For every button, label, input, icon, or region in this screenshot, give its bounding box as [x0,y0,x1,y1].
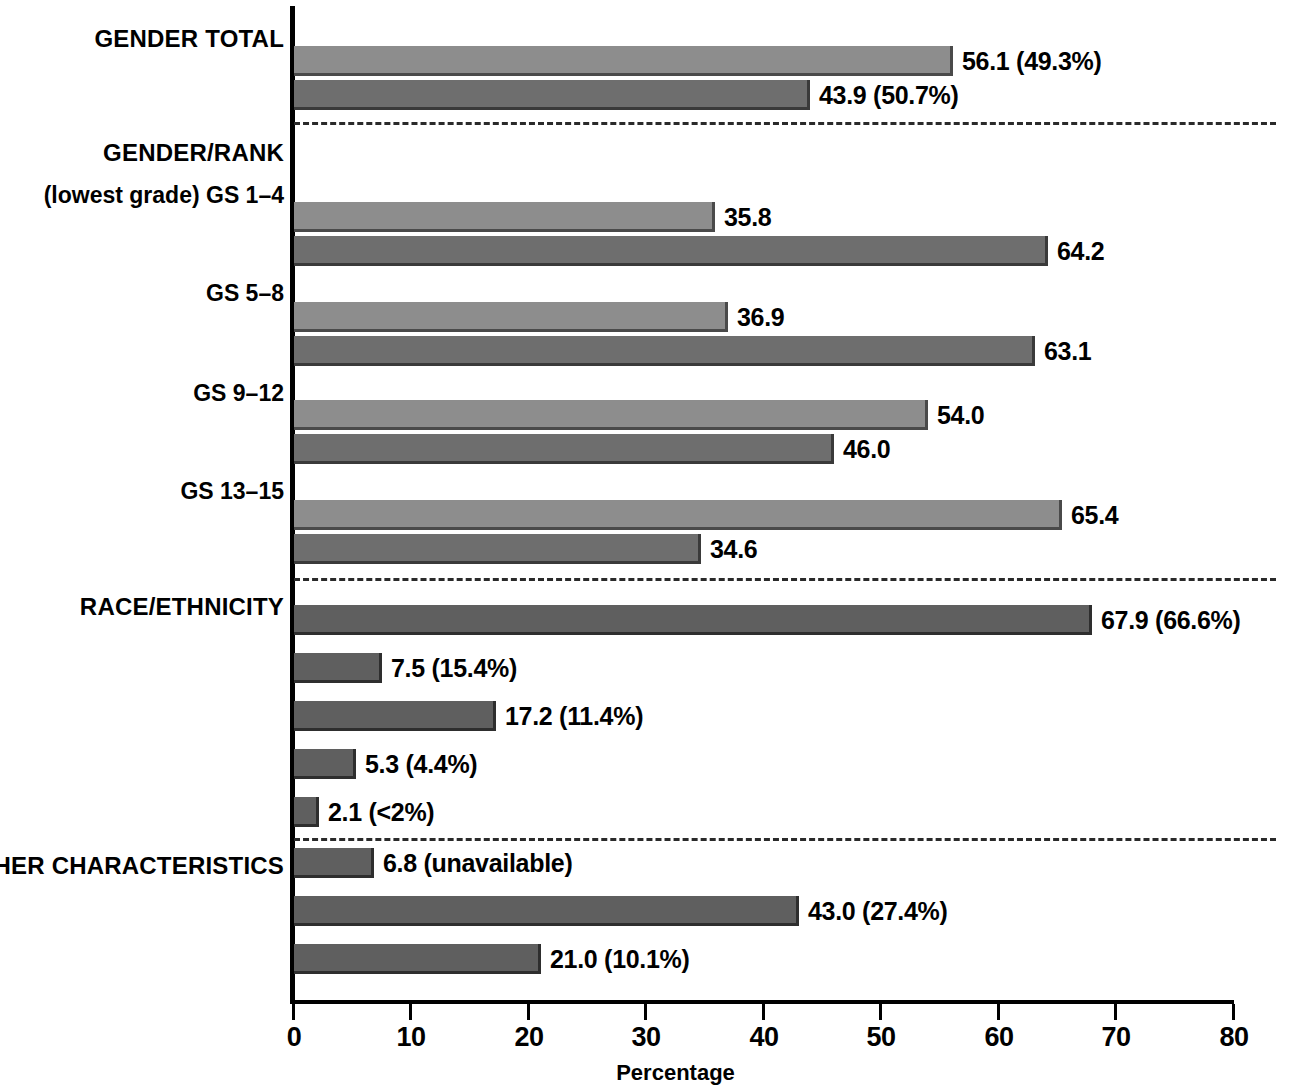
section-divider-2 [294,578,1276,581]
bar-african-american [294,701,496,731]
bar-veteran [294,944,541,974]
x-tick-10 [409,1004,412,1020]
x-tick-30 [644,1004,647,1020]
subgroup-header-gs-1-4: (lowest grade) GS 1–4 [0,180,294,210]
x-tick-20 [527,1004,530,1020]
x-tick-label-10: 10 [396,1022,425,1053]
section-header-gender-total: GENDER TOTAL [0,24,294,54]
bar-gs-13-15-female [294,534,701,564]
x-tick-0 [292,1004,295,1020]
x-tick-40 [762,1004,765,1020]
value-american-indian: 2.1 (<2%) [328,797,434,827]
value-gs-1-4-female: 64.2 [1057,236,1104,266]
bar-hispanic [294,653,382,683]
bar-gs-5-8-male [294,302,728,332]
section-header-other-characteristics: OTHER CHARACTERISTICS [0,851,294,881]
x-axis-title: Percentage [0,1060,1296,1086]
value-disabled: 6.8 (unavailable) [383,848,572,878]
value-asian-pacific-island-american: 5.3 (4.4%) [365,749,477,779]
x-tick-label-60: 60 [984,1022,1013,1053]
x-tick-label-30: 30 [631,1022,660,1053]
bar-gs-9-12-female [294,434,834,464]
section-divider-3 [294,838,1276,841]
x-tick-label-0: 0 [287,1022,302,1053]
bar-gender-total-male [294,46,953,76]
x-tick-label-80: 80 [1219,1022,1248,1053]
subgroup-header-gs-9-12: GS 9–12 [0,378,294,408]
bar-gs-13-15-male [294,500,1062,530]
value-gs-9-12-female: 46.0 [843,434,890,464]
x-tick-label-70: 70 [1101,1022,1130,1053]
value-gender-total-female: 43.9 (50.7%) [819,80,959,110]
x-tick-50 [879,1004,882,1020]
x-tick-label-40: 40 [749,1022,778,1053]
value-gs-9-12-male: 54.0 [937,400,984,430]
bar-white [294,605,1092,635]
x-tick-label-20: 20 [514,1022,543,1053]
value-gs-5-8-male: 36.9 [737,302,784,332]
subgroup-header-gs-13-15: GS 13–15 [0,476,294,506]
bar-asian-pacific-island-american [294,749,356,779]
value-gs-13-15-female: 34.6 [710,534,757,564]
value-white: 67.9 (66.6%) [1101,605,1241,635]
bar-gender-total-female [294,80,810,110]
bar-gs-5-8-female [294,336,1035,366]
x-tick-label-50: 50 [866,1022,895,1053]
bar-disabled [294,848,374,878]
x-axis-title-text: Percentage [616,1060,735,1086]
bar-chart: 0 10 20 30 40 50 60 70 80 Percentage GEN… [0,0,1296,1092]
x-tick-60 [997,1004,1000,1020]
section-header-race-ethnicity: RACE/ETHNICITY [0,592,294,622]
value-hispanic: 7.5 (15.4%) [391,653,517,683]
value-gs-1-4-male: 35.8 [724,202,771,232]
x-tick-80 [1232,1004,1235,1020]
value-college-educated: 43.0 (27.4%) [808,896,948,926]
value-gs-13-15-male: 65.4 [1071,500,1118,530]
value-gs-5-8-female: 63.1 [1044,336,1091,366]
section-header-gender-rank: GENDER/RANK [0,138,294,168]
bar-american-indian [294,797,319,827]
value-veteran: 21.0 (10.1%) [550,944,690,974]
value-african-american: 17.2 (11.4%) [505,701,643,731]
bar-college-educated [294,896,799,926]
value-gender-total-male: 56.1 (49.3%) [962,46,1102,76]
bar-gs-9-12-male [294,400,928,430]
section-divider-1 [294,122,1276,125]
bar-gs-1-4-male [294,202,715,232]
x-tick-70 [1114,1004,1117,1020]
subgroup-header-gs-5-8: GS 5–8 [0,278,294,308]
bar-gs-1-4-female [294,236,1048,266]
